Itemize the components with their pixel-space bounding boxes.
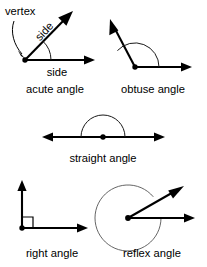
caption-obtuse-angle: obtuse angle xyxy=(121,83,185,95)
caption-straight-angle: straight angle xyxy=(69,152,136,164)
panel-obtuse-angle: obtuse angle xyxy=(109,19,192,95)
caption-acute-angle: acute angle xyxy=(26,83,84,95)
right-vertical-ray xyxy=(17,180,26,228)
right-vertex-dot xyxy=(19,225,24,230)
reflex-horizontal-ray xyxy=(128,213,195,222)
acute-angle-arc xyxy=(43,41,51,60)
obtuse-vertex-dot xyxy=(132,64,137,69)
straight-angle-arc xyxy=(81,115,125,137)
diagram-canvas: vertex side side acute angle obtuse angl… xyxy=(0,0,207,267)
panel-reflex-angle: reflex angle xyxy=(95,185,195,259)
side-label-horizontal: side xyxy=(47,66,68,78)
straight-vertex-dot xyxy=(100,134,105,139)
vertex-leader-arrow xyxy=(12,21,25,59)
caption-reflex-angle: reflex angle xyxy=(123,247,181,259)
straight-right-ray xyxy=(103,132,165,141)
angle-types-diagram: vertex side side acute angle obtuse angl… xyxy=(0,0,207,267)
obtuse-horizontal-ray xyxy=(135,62,192,71)
panel-acute-angle: vertex side side acute angle xyxy=(5,5,95,95)
acute-vertex-dot xyxy=(22,57,27,62)
panel-straight-angle: straight angle xyxy=(42,115,165,164)
reflex-vertex-dot xyxy=(125,215,131,221)
reflex-diagonal-ray xyxy=(128,186,184,218)
panel-right-angle: right angle xyxy=(17,180,88,259)
vertex-label: vertex xyxy=(5,5,36,17)
acute-horizontal-ray xyxy=(25,55,95,64)
side-label-diagonal: side xyxy=(33,20,56,43)
caption-right-angle: right angle xyxy=(26,247,78,259)
straight-left-ray xyxy=(42,132,103,141)
right-horizontal-ray xyxy=(22,223,88,232)
